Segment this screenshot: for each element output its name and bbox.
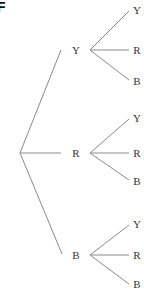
node-r-y: Y <box>133 113 141 124</box>
node-b-r: R <box>133 250 140 261</box>
level2-edges-b <box>90 225 129 284</box>
edge-root-to-y <box>20 50 61 153</box>
edge-r-to-y <box>90 119 129 153</box>
edge-r-to-b <box>90 153 129 180</box>
edge-b-to-b <box>90 255 129 284</box>
level2-edges-y <box>90 11 129 80</box>
node-b-b: B <box>133 279 140 290</box>
edge-b-to-y <box>90 225 129 255</box>
node-r-r: R <box>133 148 140 159</box>
level2-edges-r <box>90 119 129 180</box>
node-level1-b: B <box>72 250 79 261</box>
node-y-y: Y <box>133 5 141 16</box>
level1-edges <box>20 50 62 254</box>
node-r-b: B <box>133 176 140 187</box>
edge-y-to-b <box>90 50 129 80</box>
node-level1-y: Y <box>72 45 80 56</box>
edge-y-to-y <box>90 11 129 50</box>
edge-root-to-b <box>20 153 62 254</box>
node-b-y: Y <box>133 219 141 230</box>
node-y-r: R <box>133 45 140 56</box>
node-level1-r: R <box>72 148 79 159</box>
node-y-b: B <box>133 76 140 87</box>
